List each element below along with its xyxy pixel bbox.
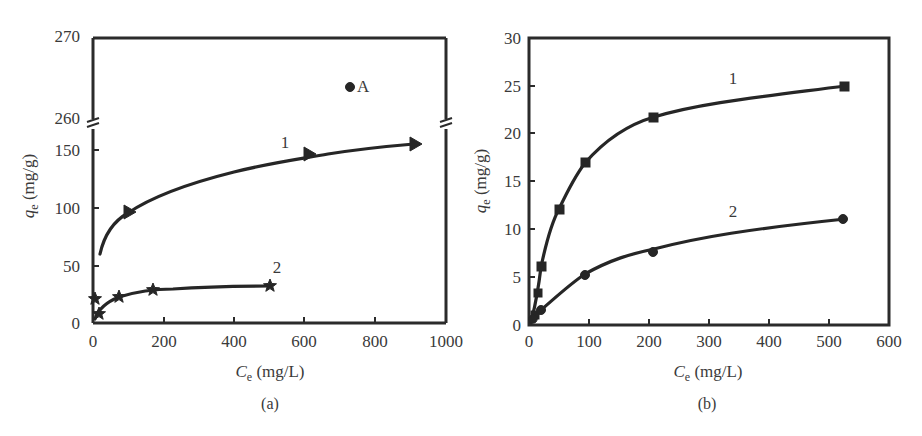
chart-a-marker-star <box>89 292 102 304</box>
chart-a-ytick-150: 150 <box>55 141 81 160</box>
chart-b-marker-circle <box>649 248 658 257</box>
chart-b-marker-square <box>581 158 590 167</box>
chart-a-marker-star <box>147 283 160 295</box>
chart-a-label-a: A <box>357 77 370 96</box>
axis-break-left-icon <box>87 118 99 127</box>
chart-b-curve-1 <box>531 86 845 322</box>
chart-a-marker-triangle <box>124 205 136 219</box>
chart-b-marker-circle <box>839 215 848 224</box>
chart-a-y-axis-title: qe (mg/g) <box>19 154 41 218</box>
chart-b-xtick-300: 300 <box>696 332 722 351</box>
chart-b-y-axis-title: qe (mg/g) <box>471 149 493 213</box>
chart-b-marker-square <box>537 262 546 271</box>
chart-a-xtick-800: 800 <box>362 332 388 351</box>
chart-b-ytick-0: 0 <box>513 316 522 335</box>
chart-a-ytick-50: 50 <box>63 257 80 276</box>
chart-a: 0 50 100 150 260 270 0 200 400 600 800 1… <box>19 27 463 413</box>
chart-a-marker-point-a <box>346 83 355 92</box>
chart-b-xtick-100: 100 <box>576 332 602 351</box>
chart-a-x-axis-title: Ce (mg/L) <box>235 362 304 384</box>
chart-b-ytick-20: 20 <box>504 124 521 143</box>
chart-a-curve-1 <box>100 144 414 254</box>
chart-a-marker-star <box>264 279 277 291</box>
chart-a-curve-2 <box>95 286 270 319</box>
chart-b: 0 5 10 15 20 25 30 0 100 200 300 400 500… <box>471 29 902 413</box>
chart-b-x-axis-title: Ce (mg/L) <box>673 362 742 384</box>
chart-b-frame <box>529 38 889 325</box>
chart-a-xtick-200: 200 <box>151 332 177 351</box>
chart-a-marker-triangle <box>410 137 422 151</box>
chart-a-xtick-1000: 1000 <box>429 332 463 351</box>
chart-b-xtick-400: 400 <box>756 332 782 351</box>
chart-b-xtick-0: 0 <box>525 332 534 351</box>
chart-b-panel-label: (b) <box>698 395 717 413</box>
chart-a-ytick-0: 0 <box>72 314 81 333</box>
chart-b-curve-2 <box>531 219 845 323</box>
chart-b-marker-circle <box>537 306 546 315</box>
chart-b-label-curve-1: 1 <box>729 69 738 88</box>
chart-b-ytick-25: 25 <box>504 77 521 96</box>
chart-a-marker-triangle <box>304 147 316 161</box>
chart-b-marker-square <box>534 289 542 297</box>
chart-b-ytick-10: 10 <box>504 220 521 239</box>
chart-b-marker-circle <box>529 315 537 323</box>
chart-b-marker-square <box>840 82 849 91</box>
chart-a-xtick-400: 400 <box>221 332 247 351</box>
figure-canvas: 0 50 100 150 260 270 0 200 400 600 800 1… <box>0 0 922 436</box>
chart-a-xtick-0: 0 <box>89 332 98 351</box>
chart-a-ytick-260: 260 <box>55 109 81 128</box>
chart-a-label-curve-2: 2 <box>273 258 282 277</box>
axis-break-right-icon <box>440 118 452 127</box>
chart-b-ytick-30: 30 <box>504 29 521 48</box>
chart-b-marker-square <box>555 205 564 214</box>
chart-b-marker-square <box>649 113 658 122</box>
chart-a-panel-label: (a) <box>261 395 279 413</box>
chart-b-ytick-15: 15 <box>504 172 521 191</box>
chart-a-ytick-270: 270 <box>55 27 81 46</box>
chart-a-ytick-100: 100 <box>55 199 81 218</box>
chart-b-marker-circle <box>581 271 590 280</box>
chart-b-label-curve-2: 2 <box>729 202 738 221</box>
chart-a-xtick-600: 600 <box>291 332 317 351</box>
chart-b-xtick-600: 600 <box>876 332 902 351</box>
chart-b-ytick-5: 5 <box>513 268 522 287</box>
chart-b-xtick-500: 500 <box>816 332 842 351</box>
chart-b-xtick-200: 200 <box>636 332 662 351</box>
chart-a-label-curve-1: 1 <box>281 133 290 152</box>
